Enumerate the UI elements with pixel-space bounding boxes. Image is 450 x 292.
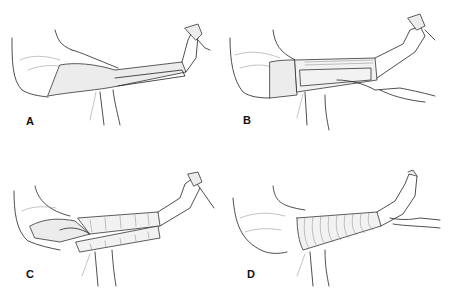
- panel-b: B: [225, 0, 450, 146]
- panel-label-b: B: [243, 114, 251, 126]
- leg-drawing-d: [225, 146, 450, 292]
- panel-label-c: C: [26, 268, 34, 280]
- panel-c: C: [0, 146, 225, 292]
- panel-label-a: A: [26, 115, 34, 127]
- panel-label-d: D: [247, 268, 255, 280]
- panel-d: D: [225, 146, 450, 292]
- leg-drawing-b: [225, 0, 450, 146]
- panel-a: A: [0, 0, 225, 146]
